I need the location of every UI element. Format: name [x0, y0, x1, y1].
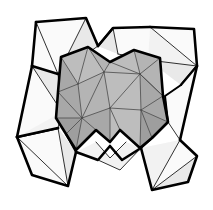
arm-bottom-right: [141, 140, 197, 190]
polyhedron-diagram: [0, 0, 213, 210]
figure-root: Star-shaped polyhedral wireframe diagram: [0, 0, 213, 210]
inner-body: [56, 47, 168, 150]
